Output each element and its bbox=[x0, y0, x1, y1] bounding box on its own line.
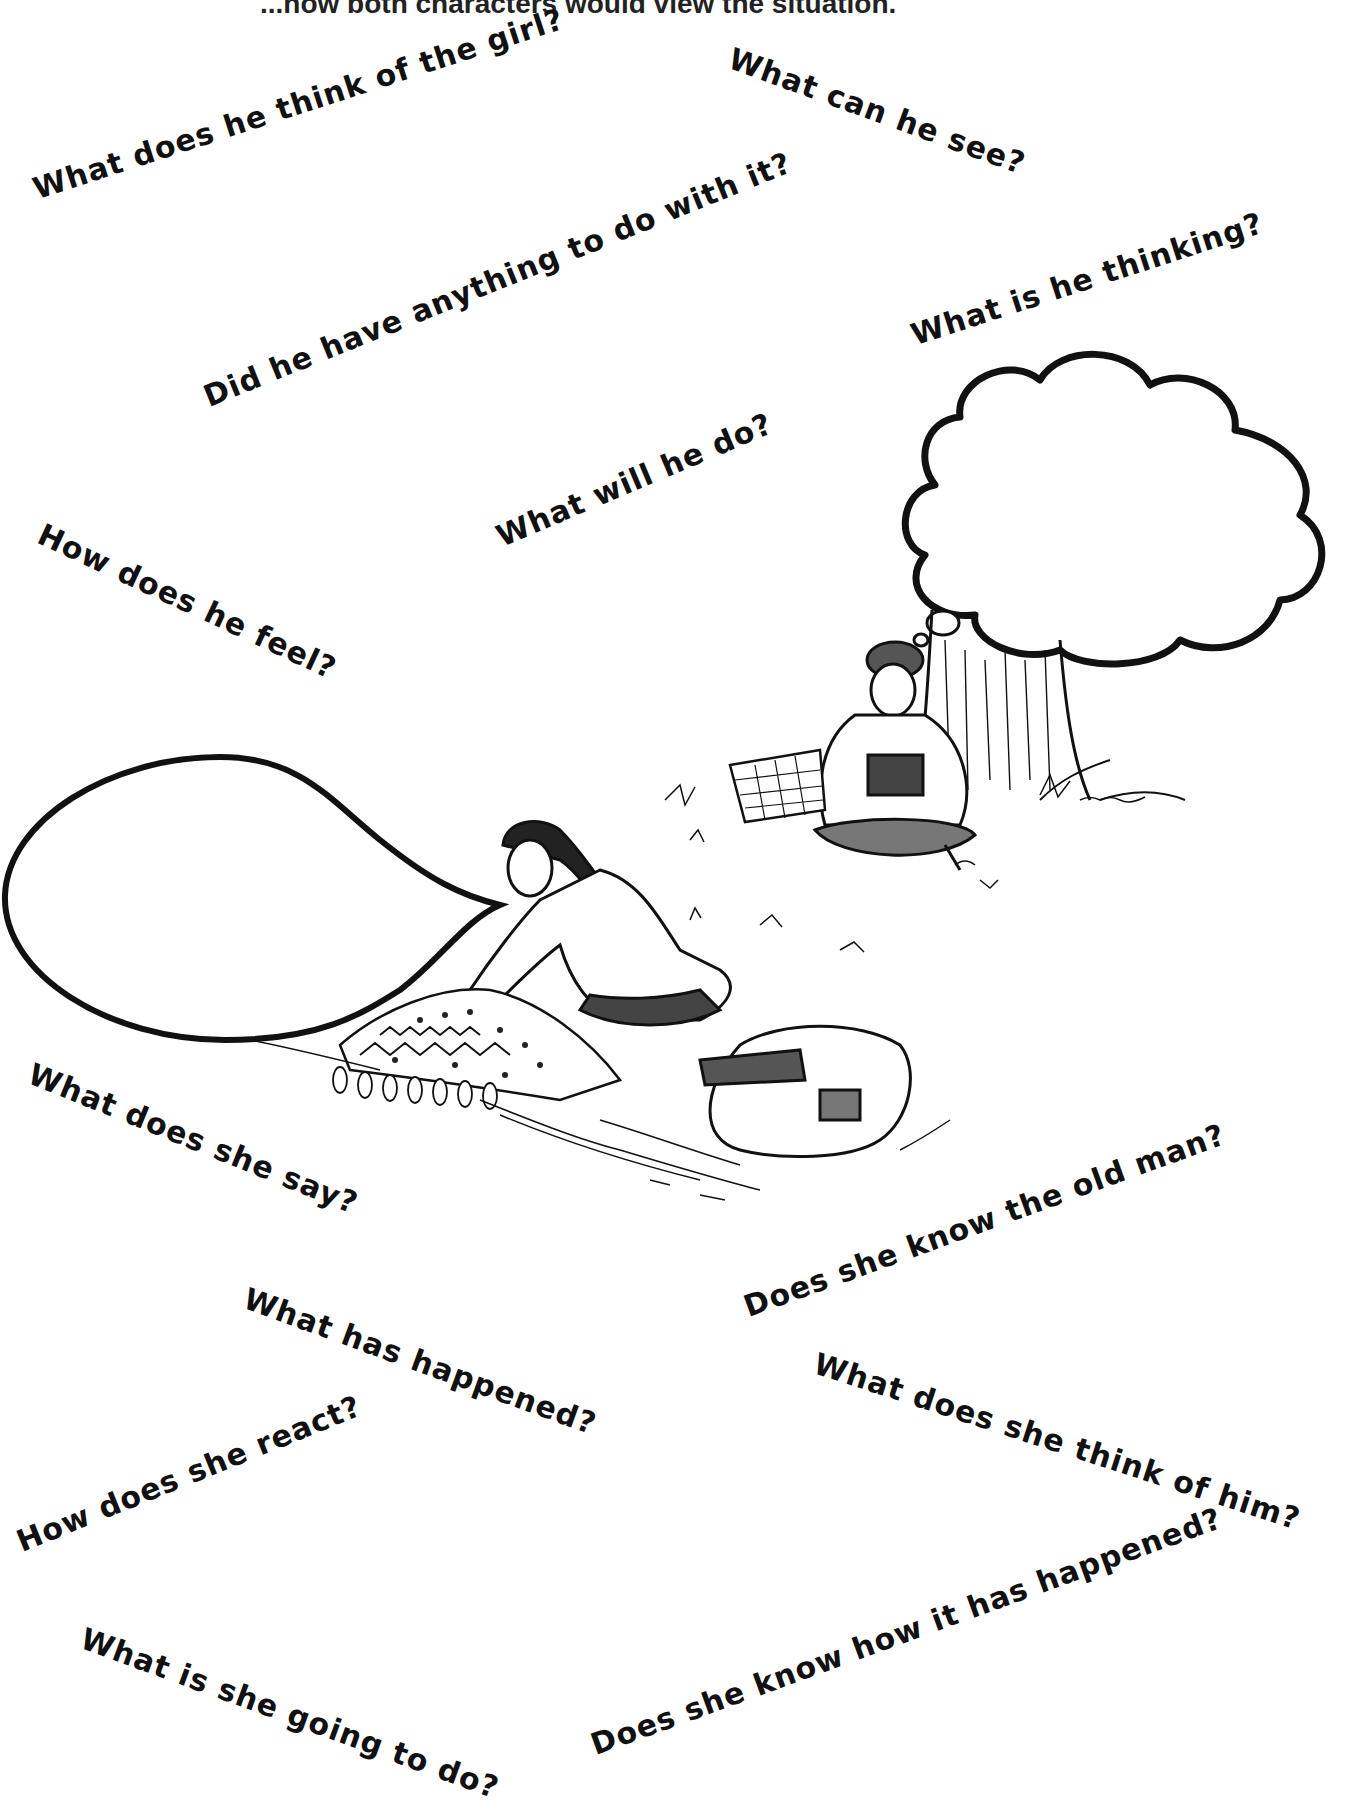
thought-bubble[interactable] bbox=[905, 354, 1322, 664]
broken-basket-icon bbox=[700, 1026, 910, 1156]
thought-dot-small bbox=[914, 634, 928, 646]
old-man-figure bbox=[815, 642, 975, 870]
basket-icon bbox=[730, 750, 825, 822]
